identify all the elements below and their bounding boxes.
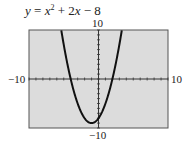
plot-area [0,0,186,142]
